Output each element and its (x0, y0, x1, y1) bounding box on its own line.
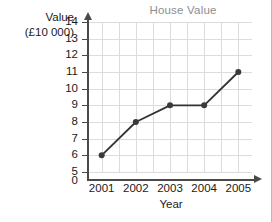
data-point-marker (133, 119, 139, 125)
y-axis-arrow-icon (84, 12, 92, 20)
chart-figure: House Value Value (£10 000) Year 1413121… (0, 0, 272, 222)
y-axis-tick (82, 72, 87, 73)
y-axis-origin-label: 0 (52, 174, 78, 186)
gridline-horizontal (88, 172, 252, 173)
y-axis-tick (82, 139, 87, 140)
data-point-marker (235, 69, 241, 75)
y-axis-tick (82, 155, 87, 156)
y-axis-tick-label: 7 (52, 132, 78, 144)
y-axis-tick-label: 9 (52, 98, 78, 110)
x-axis-line (87, 179, 255, 181)
data-point-marker (99, 152, 105, 158)
plot-area (88, 22, 252, 172)
page-border-rule (271, 0, 272, 222)
series-markers (99, 69, 242, 158)
y-axis-tick-label: 12 (52, 48, 78, 60)
x-axis-tick-label: 2005 (218, 182, 258, 194)
data-point-marker (201, 102, 207, 108)
y-axis-tick-label: 10 (52, 82, 78, 94)
y-axis-tick (82, 89, 87, 90)
data-series-line (88, 22, 252, 172)
y-axis-tick (82, 172, 87, 173)
y-axis-line (87, 18, 89, 180)
chart-title: House Value (118, 4, 248, 16)
y-axis-tick-label: 14 (52, 15, 78, 27)
y-axis-tick (82, 122, 87, 123)
x-axis-label: Year (86, 198, 256, 210)
y-axis-tick-label: 13 (52, 32, 78, 44)
y-axis-tick-label: 11 (52, 65, 78, 77)
y-axis-tick (82, 105, 87, 106)
y-axis-tick-label: 8 (52, 115, 78, 127)
data-point-marker (167, 102, 173, 108)
y-axis-tick (82, 39, 87, 40)
y-axis-tick (82, 55, 87, 56)
y-axis-tick-label: 6 (52, 148, 78, 160)
series-polyline (102, 72, 239, 155)
y-axis-tick (82, 22, 87, 23)
